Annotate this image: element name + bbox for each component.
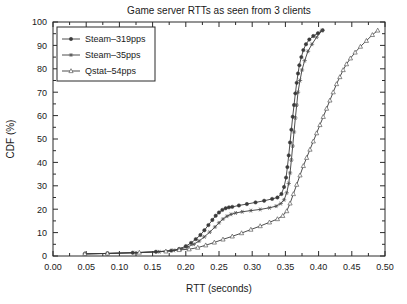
y-tick-label: 10 [37,228,47,238]
x-tick-label: 0.05 [77,262,95,272]
legend-label: Steam–35pps [85,50,141,60]
data-point-marker [302,48,305,51]
data-point-marker [270,197,273,200]
data-point-marker [280,192,283,195]
data-point-marker [221,208,224,211]
data-point-marker [211,218,214,221]
y-tick-label: 70 [37,88,47,98]
data-point-marker [69,37,72,40]
data-point-marker [245,202,248,205]
x-tick-label: 0.00 [44,262,62,272]
data-point-marker [203,229,206,232]
data-point-marker [298,64,301,67]
x-axis-title: RTT (seconds) [186,283,252,294]
y-tick-label: 60 [37,111,47,121]
data-point-marker [237,204,240,207]
data-point-marker [217,211,220,214]
x-tick-label: 0.25 [210,262,228,272]
data-point-marker [207,223,210,226]
data-point-marker [290,128,293,131]
x-tick-label: 0.35 [277,262,295,272]
chart-figure: Game server RTTs as seen from 3 clients … [0,0,407,304]
data-point-marker [254,201,257,204]
y-tick-label: 80 [37,64,47,74]
data-point-marker [214,214,217,217]
data-point-marker [224,207,227,210]
data-point-marker [194,237,197,240]
legend-label: Qstat–54pps [85,66,137,76]
data-point-marker [276,196,279,199]
y-tick-label: 20 [37,205,47,215]
chart-legend: Steam–319ppsSteam–35ppsQstat–54pps [57,27,155,81]
data-point-marker [262,199,265,202]
data-point-marker [300,55,303,58]
data-point-marker [295,81,298,84]
data-point-marker [284,176,287,179]
y-tick-label: 50 [37,134,47,144]
legend-label: Steam–319pps [85,34,146,44]
data-point-marker [288,141,291,144]
data-point-marker [227,206,230,209]
y-tick-label: 0 [42,251,47,261]
cdf-chart: Game server RTTs as seen from 3 clients … [0,0,407,304]
chart-title: Game server RTTs as seen from 3 clients [127,5,311,16]
data-point-marker [304,43,307,46]
x-tick-label: 0.50 [376,262,394,272]
y-tick-label: 40 [37,158,47,168]
data-point-marker [287,154,290,157]
data-point-marker [308,38,311,41]
y-tick-label: 30 [37,181,47,191]
data-point-marker [286,165,289,168]
y-tick-label: 100 [32,17,47,27]
x-tick-label: 0.20 [177,262,195,272]
y-tick-label: 90 [37,41,47,51]
x-tick-label: 0.45 [343,262,361,272]
data-point-marker [231,205,234,208]
y-axis-title: CDF (%) [5,120,16,159]
x-tick-label: 0.15 [144,262,162,272]
data-point-marker [199,233,202,236]
x-tick-label: 0.10 [111,262,129,272]
data-point-marker [282,185,285,188]
data-point-marker [296,72,299,75]
x-tick-label: 0.30 [243,262,261,272]
x-tick-label: 0.40 [310,262,328,272]
